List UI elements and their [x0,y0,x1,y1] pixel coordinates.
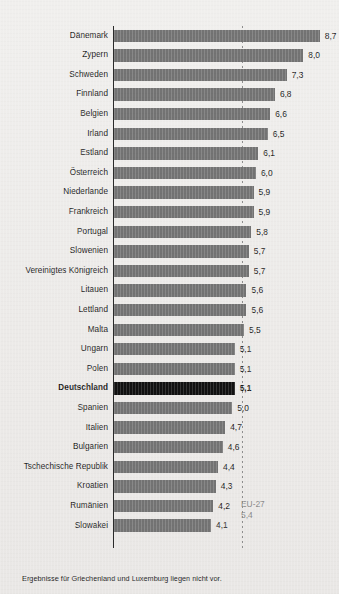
bar [114,245,249,257]
bar-row: Vereinigtes Königreich5,7 [0,261,339,281]
value-label: 4,4 [223,463,235,471]
category-label: Vereinigtes Königreich [0,267,108,275]
bar-fill [114,147,258,159]
bar-fill [114,304,246,316]
bar-fill [114,167,256,179]
bar [114,49,303,61]
bar-row: Estland6,1 [0,144,339,164]
bar-fill [114,265,249,277]
bar [114,480,216,492]
bar-row: Ungarn5,1 [0,340,339,360]
value-label: 4,2 [218,502,230,510]
value-label: 8,0 [308,51,320,59]
value-label: 5,1 [240,384,252,392]
bar-fill [114,382,235,394]
bar-row: Spanien5,0 [0,398,339,418]
bar-row: Portugal5,8 [0,222,339,242]
value-label: 5,1 [240,365,252,373]
bar-fill [114,402,232,414]
bar [114,265,249,277]
bar [114,147,258,159]
category-label: Niederlande [0,188,108,196]
value-label: 5,7 [254,267,266,275]
value-label: 5,1 [240,345,252,353]
category-label: Österreich [0,169,108,177]
bar [114,128,268,140]
category-label: Irland [0,130,108,138]
category-label: Estland [0,149,108,157]
eu27-value: 5,4 [241,510,301,521]
category-label: Kroatien [0,482,108,490]
bar-fill [114,245,249,257]
category-label: Schweden [0,71,108,79]
bar [114,304,246,316]
bar-fill [114,128,268,140]
bar [114,500,213,512]
bar [114,186,254,198]
bar-row: Niederlande5,9 [0,183,339,203]
bar [114,284,246,296]
bar [114,69,287,81]
bar-fill [114,363,235,375]
category-label: Dänemark [0,32,108,40]
bar-row: Österreich6,0 [0,163,339,183]
value-label: 5,6 [251,306,263,314]
value-label: 5,9 [259,188,271,196]
bar-row: Frankreich5,9 [0,202,339,222]
bar [114,441,223,453]
bar [114,324,244,336]
bar-chart-figure: Dänemark8,7Zypern8,0Schweden7,3Finnland6… [0,0,339,594]
bar [114,363,235,375]
category-label: Tschechische Republik [0,463,108,471]
category-label: Frankreich [0,208,108,216]
bar [114,88,275,100]
value-label: 6,6 [275,110,287,118]
bar-row: Slowenien5,7 [0,242,339,262]
bar-row: Deutschland5,1 [0,379,339,399]
value-label: 4,7 [230,423,242,431]
bar [114,402,232,414]
bar-rows: Dänemark8,7Zypern8,0Schweden7,3Finnland6… [0,26,339,535]
bar-row: Lettland5,6 [0,300,339,320]
category-label: Malta [0,326,108,334]
bar-fill [114,480,216,492]
bar-fill [114,206,254,218]
category-label: Spanien [0,404,108,412]
value-label: 5,9 [259,208,271,216]
value-label: 5,7 [254,247,266,255]
category-label: Deutschland [0,384,108,392]
bar [114,30,320,42]
bar-row: Bulgarien4,6 [0,437,339,457]
bar-row: Schweden7,3 [0,65,339,85]
bar [114,206,254,218]
bar-row: Dänemark8,7 [0,26,339,46]
bar-fill [114,226,251,238]
bar-fill [114,108,270,120]
category-label: Belgien [0,110,108,118]
bar-row: Belgien6,6 [0,104,339,124]
bar-fill [114,88,275,100]
bar-fill [114,441,223,453]
bar-fill [114,186,254,198]
bar-fill [114,500,213,512]
bar [114,461,218,473]
value-label: 5,5 [249,326,261,334]
category-label: Rumänien [0,502,108,510]
category-label: Litauen [0,286,108,294]
bar [114,382,235,394]
category-label: Zypern [0,51,108,59]
bar-row: Irland6,5 [0,124,339,144]
value-label: 4,3 [221,482,233,490]
plot-area: Dänemark8,7Zypern8,0Schweden7,3Finnland6… [0,26,339,554]
bar-row: Malta5,5 [0,320,339,340]
value-label: 5,6 [251,286,263,294]
bar [114,343,235,355]
bar [114,226,251,238]
category-label: Bulgarien [0,443,108,451]
bar-row: Tschechische Republik4,4 [0,457,339,477]
bar-row: Kroatien4,3 [0,477,339,497]
chart-footnote: Ergebnisse für Griechenland und Luxembur… [22,574,222,583]
bar-fill [114,324,244,336]
bar-fill [114,284,246,296]
bar-row: Zypern8,0 [0,46,339,66]
